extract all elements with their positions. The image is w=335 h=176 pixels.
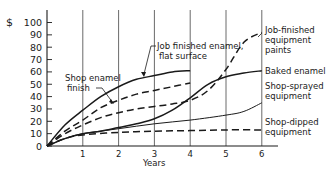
x-axis-ticks: 123456 [80, 149, 264, 159]
y-tick-label: 20 [30, 116, 42, 127]
y-tick-label: 30 [30, 103, 42, 114]
label-shop-dipped-equipment: equipment [265, 127, 312, 137]
annotation-text: finish [67, 83, 90, 93]
x-tick-label: 4 [187, 149, 192, 159]
y-axis-ticks: 0102030405060708090100 [24, 17, 52, 152]
x-tick-label: 5 [223, 149, 228, 159]
x-tick-label: 6 [259, 149, 264, 159]
label-baked-enamel: Baked enamel [265, 66, 326, 76]
label-shop-dipped-equipment: Shop-dipped [265, 117, 319, 127]
x-tick-label: 1 [80, 149, 85, 159]
y-tick-label: 60 [30, 66, 42, 77]
annotation-text: flat surface [159, 51, 207, 61]
y-tick-label: 90 [30, 29, 42, 40]
label-job-finished-equipment-paints: equipment [265, 35, 312, 45]
y-tick-label: 40 [30, 91, 42, 102]
y-tick-label: 80 [30, 42, 42, 53]
annotation-shop-enamel-finish: Shop enamel finish [65, 73, 121, 104]
x-tick-label: 2 [116, 149, 121, 159]
x-axis-title: Years [142, 158, 166, 168]
label-job-finished-equipment-paints: paints [265, 45, 292, 55]
y-tick-label: 50 [30, 79, 42, 90]
annotation-text: Shop enamel [65, 73, 121, 83]
direct-labels: Job-finished equipment paints Baked enam… [258, 25, 326, 137]
cost-over-years-chart: 0102030405060708090100 123456 $ Years Sh… [0, 0, 335, 176]
annotation-job-finished-enamel: Job finished enamel, flat surface [141, 41, 243, 77]
y-axis-currency-label: $ [6, 16, 13, 29]
annotation-text: Job finished enamel, [156, 41, 243, 51]
y-tick-label: 0 [36, 141, 42, 152]
y-tick-label: 100 [24, 17, 42, 28]
y-tick-label: 70 [30, 54, 42, 65]
y-tick-label: 10 [30, 128, 42, 139]
label-shop-sprayed-equipment: equipment [265, 91, 312, 101]
label-job-finished-equipment-paints: Job-finished [264, 25, 315, 35]
label-shop-sprayed-equipment: Shop-sprayed [265, 81, 324, 91]
